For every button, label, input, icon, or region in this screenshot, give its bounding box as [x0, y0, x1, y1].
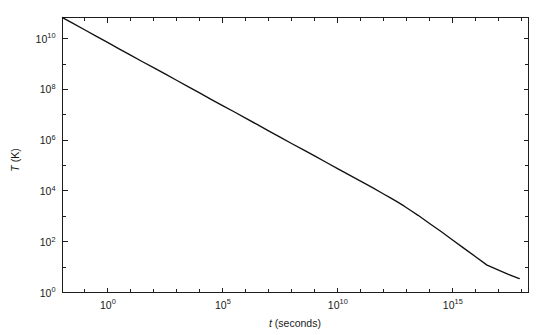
y-axis-minor-ticks: [63, 64, 529, 267]
x-axis-title: t (seconds): [269, 317, 321, 329]
x-axis-minor-ticks: [85, 18, 522, 293]
y-tick-label: 1010: [36, 31, 56, 44]
x-tick-label: 100: [100, 297, 116, 310]
x-axis-major-ticks: [108, 18, 453, 293]
axis-spine-rect: [63, 18, 529, 293]
y-axis-major-ticks: [63, 39, 529, 293]
temperature-vs-time-chart: 10010510101015 1001021041061081010 t (se…: [0, 0, 546, 335]
x-tick-label: 1010: [328, 297, 348, 310]
y-tick-label: 108: [40, 82, 56, 95]
y-tick-label: 100: [40, 285, 56, 298]
x-axis-tick-labels: 10010510101015: [100, 297, 463, 310]
x-tick-label: 105: [215, 297, 231, 310]
data-series-group: [62, 18, 519, 279]
temperature-curve: [62, 18, 519, 279]
y-axis-title: T (K): [9, 148, 21, 171]
x-axis-title-group: t (seconds): [269, 317, 321, 329]
x-tick-label: 1015: [443, 297, 463, 310]
y-tick-label: 104: [40, 184, 56, 197]
y-axis-tick-labels: 1001021041061081010: [36, 31, 56, 298]
y-tick-label: 102: [40, 235, 56, 248]
y-tick-label: 106: [40, 133, 56, 146]
chart-figure: 10010510101015 1001021041061081010 t (se…: [0, 0, 546, 335]
axes-frame: [63, 18, 529, 293]
y-axis-title-group: T (K): [9, 148, 21, 171]
